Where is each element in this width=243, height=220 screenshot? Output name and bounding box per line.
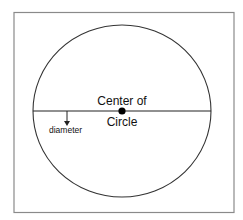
center-dot — [118, 107, 125, 114]
circle-diagram: Center of Circle diameter — [0, 0, 243, 220]
center-label-line1: Center of — [97, 94, 147, 108]
diameter-label: diameter — [49, 125, 82, 135]
center-label-line2: Circle — [107, 115, 138, 129]
